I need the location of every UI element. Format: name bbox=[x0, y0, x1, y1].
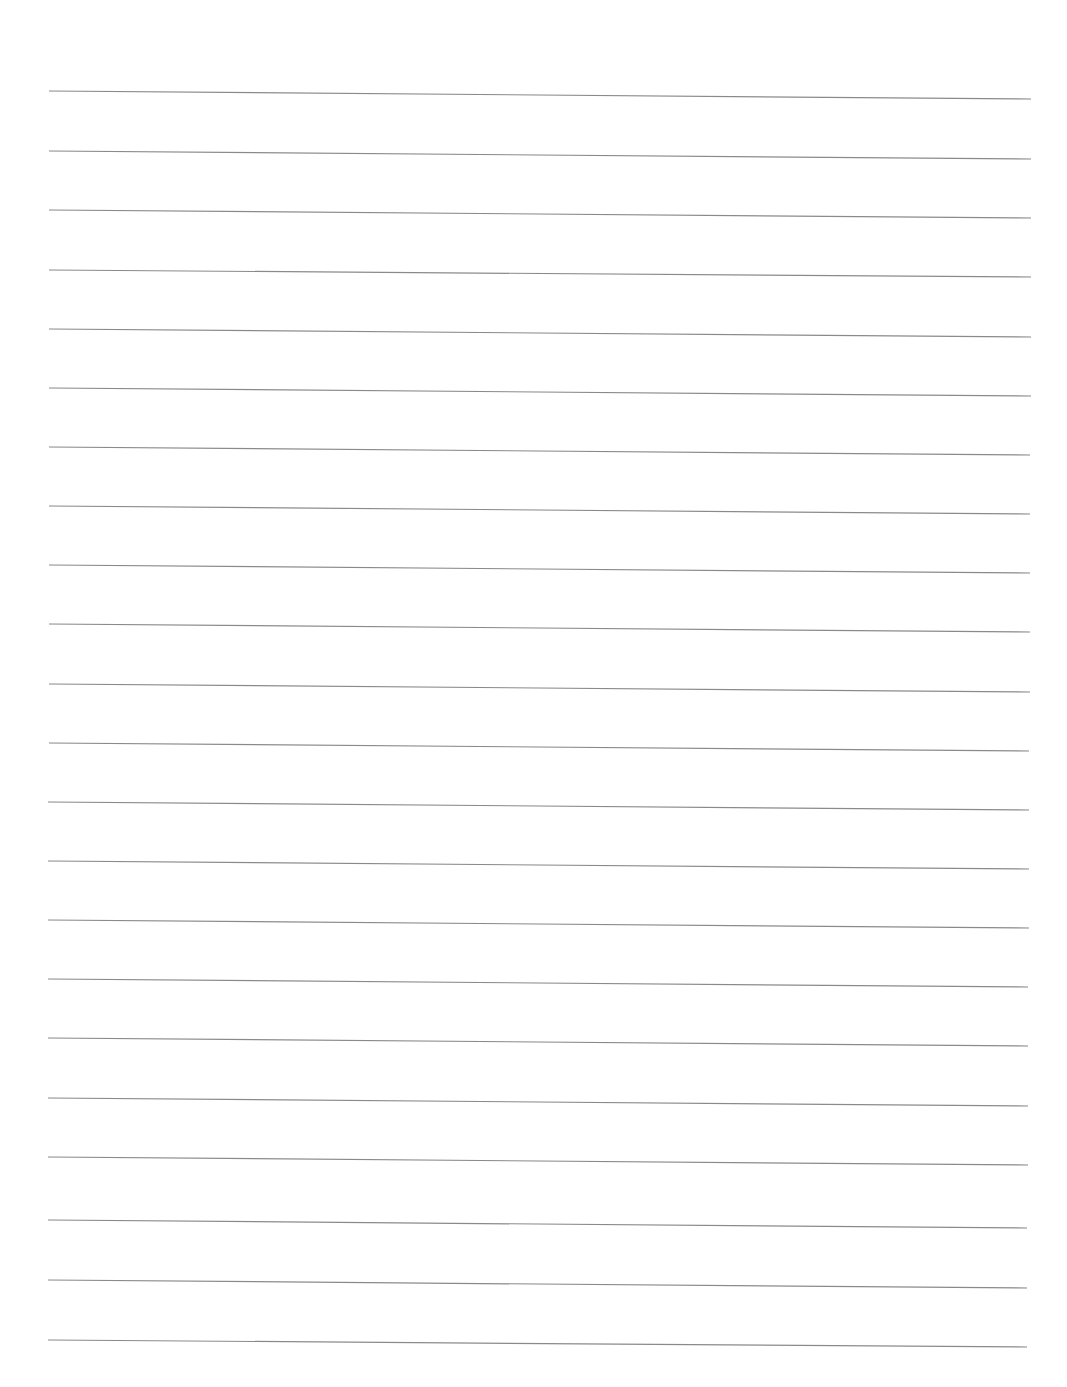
ruled-line-10 bbox=[49, 624, 1030, 632]
ruled-line-13 bbox=[48, 802, 1029, 810]
ruled-line-19 bbox=[48, 1157, 1028, 1165]
ruled-line-11 bbox=[49, 684, 1030, 692]
ruled-line-8 bbox=[49, 506, 1030, 514]
lined-paper-page bbox=[0, 0, 1067, 1387]
ruled-line-2 bbox=[49, 151, 1031, 159]
ruled-line-18 bbox=[48, 1098, 1028, 1106]
ruled-line-17 bbox=[48, 1038, 1028, 1046]
ruled-line-4 bbox=[49, 270, 1031, 277]
ruled-line-3 bbox=[49, 210, 1031, 218]
ruled-line-22 bbox=[48, 1340, 1027, 1347]
ruled-line-6 bbox=[49, 388, 1031, 396]
ruled-line-14 bbox=[48, 861, 1029, 869]
ruled-lines bbox=[0, 0, 1067, 1387]
ruled-line-7 bbox=[49, 447, 1030, 455]
ruled-line-9 bbox=[49, 565, 1030, 573]
ruled-line-21 bbox=[48, 1280, 1027, 1288]
ruled-line-1 bbox=[49, 91, 1031, 99]
ruled-line-12 bbox=[49, 743, 1029, 751]
ruled-line-15 bbox=[48, 920, 1029, 928]
ruled-line-5 bbox=[49, 329, 1031, 337]
ruled-line-20 bbox=[48, 1220, 1027, 1228]
ruled-line-16 bbox=[48, 979, 1028, 987]
